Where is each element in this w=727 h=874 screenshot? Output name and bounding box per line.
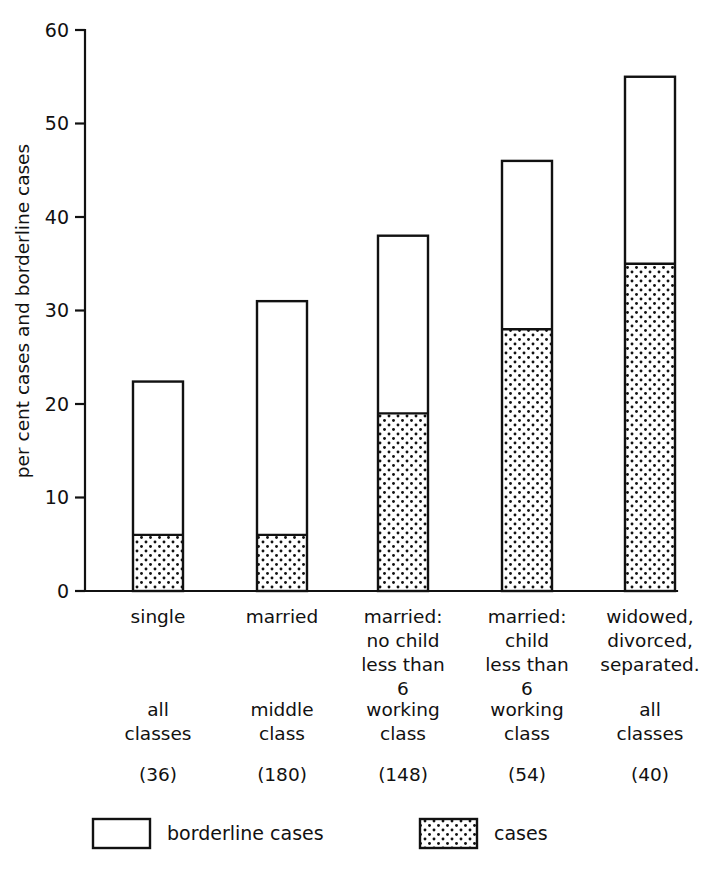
x-axis-category-labels: singlemarriedmarried:no childless than6m… xyxy=(131,606,700,699)
category-label-line: 6 xyxy=(521,678,533,699)
legend-swatch-borderline xyxy=(93,819,150,848)
y-axis-ticks: 0102030405060 xyxy=(45,19,85,602)
legend-label-cases: cases xyxy=(494,822,548,844)
category-label-line: child xyxy=(505,630,549,651)
count-label: (180) xyxy=(257,764,307,785)
y-tick-label: 10 xyxy=(45,486,69,508)
bar-segment-cases[interactable] xyxy=(133,535,183,591)
count-label: (40) xyxy=(631,764,669,785)
count-label: (148) xyxy=(378,764,428,785)
category-label-line: single xyxy=(131,606,186,627)
bar-5[interactable] xyxy=(625,77,675,591)
bar-4[interactable] xyxy=(502,161,552,591)
category-label-line: 6 xyxy=(397,678,409,699)
class-label-line: class xyxy=(259,723,305,744)
class-label-line: classes xyxy=(125,723,192,744)
y-tick-label: 30 xyxy=(45,299,69,321)
bar-segment-cases[interactable] xyxy=(625,264,675,591)
class-label-line: class xyxy=(380,723,426,744)
class-label-line: middle xyxy=(250,699,313,720)
bar-2[interactable] xyxy=(257,301,307,591)
bar-segment-cases[interactable] xyxy=(257,535,307,591)
y-tick-label: 0 xyxy=(57,580,69,602)
class-label-line: working xyxy=(490,699,563,720)
bar-segment-cases[interactable] xyxy=(502,329,552,591)
bar-segment-borderline[interactable] xyxy=(625,77,675,264)
y-tick-label: 60 xyxy=(45,19,69,41)
category-label-line: married: xyxy=(364,606,443,627)
category-label-line: divorced, xyxy=(607,630,693,651)
category-label-line: married: xyxy=(488,606,567,627)
category-label-line: separated. xyxy=(600,654,699,675)
bar-segment-borderline[interactable] xyxy=(257,301,307,535)
category-label-line: married xyxy=(246,606,319,627)
bar-segment-borderline[interactable] xyxy=(133,382,183,535)
bar-segment-cases[interactable] xyxy=(378,413,428,591)
category-label-line: no child xyxy=(367,630,440,651)
category-label-line: less than xyxy=(485,654,569,675)
bar-segment-borderline[interactable] xyxy=(378,236,428,414)
legend-label-borderline: borderline cases xyxy=(167,822,324,844)
bar-1[interactable] xyxy=(133,382,183,591)
x-axis-count-labels: (36)(180)(148)(54)(40) xyxy=(139,764,669,785)
bar-chart-svg: 0102030405060 per cent cases and borderl… xyxy=(0,0,727,874)
y-tick-label: 20 xyxy=(45,393,69,415)
class-label-line: working xyxy=(366,699,439,720)
bar-3[interactable] xyxy=(378,236,428,591)
category-label-line: widowed, xyxy=(606,606,693,627)
bars-group xyxy=(133,77,675,591)
legend: borderline cases cases xyxy=(93,819,548,848)
count-label: (36) xyxy=(139,764,177,785)
class-label-line: all xyxy=(147,699,169,720)
y-axis-label: per cent cases and borderline cases xyxy=(12,144,33,478)
chart-container: 0102030405060 per cent cases and borderl… xyxy=(0,0,727,874)
class-label-line: all xyxy=(639,699,661,720)
class-label-line: classes xyxy=(617,723,684,744)
y-tick-label: 50 xyxy=(45,112,69,134)
category-label-line: less than xyxy=(361,654,445,675)
x-axis-class-labels: allclassesmiddleclassworkingclassworking… xyxy=(125,699,684,744)
legend-swatch-cases xyxy=(420,819,477,848)
class-label-line: class xyxy=(504,723,550,744)
bar-segment-borderline[interactable] xyxy=(502,161,552,329)
y-tick-label: 40 xyxy=(45,206,69,228)
count-label: (54) xyxy=(508,764,546,785)
